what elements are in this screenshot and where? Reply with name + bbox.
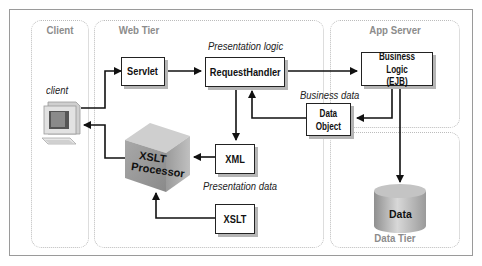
business-logic-line2: (EJB) [370,75,424,88]
data-store-label: Data [389,208,412,220]
data-object-node: DataObject [306,103,351,136]
presentation-data-label: Presentation data [203,180,277,192]
xslt-node: XSLT [215,204,255,234]
presentation-logic-label: Presentation logic [208,40,283,52]
request-handler-label: RequestHandler [210,66,281,79]
business-logic-line1: Business Logic [370,50,424,75]
request-handler-node: RequestHandler [205,57,285,87]
business-logic-node: Business Logic(EJB) [361,52,433,86]
servlet-label: Servlet [128,65,159,78]
data-object-label: DataObject [314,107,343,132]
data-object-line2: Object [316,120,341,133]
computer-icon [40,100,86,150]
servlet-node: Servlet [121,57,165,86]
xml-label: XML [225,153,245,166]
client-label: client [46,84,68,96]
business-logic-label: Business Logic(EJB) [366,50,428,88]
xslt-label: XSLT [224,213,247,226]
business-data-label: Business data [300,89,359,101]
data-object-line1: Data [316,107,341,120]
xml-node: XML [215,144,255,174]
